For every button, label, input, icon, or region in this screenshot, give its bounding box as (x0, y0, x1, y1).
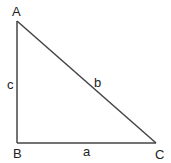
vertex-label-b: B (13, 146, 22, 161)
vertex-label-a: A (12, 4, 21, 19)
triangle-diagram: A B C c a b (0, 0, 171, 163)
vertex-label-c: C (155, 147, 164, 162)
side-label-c: c (7, 77, 14, 92)
side-label-b: b (94, 75, 101, 90)
side-b (17, 21, 156, 143)
side-label-a: a (83, 144, 91, 159)
